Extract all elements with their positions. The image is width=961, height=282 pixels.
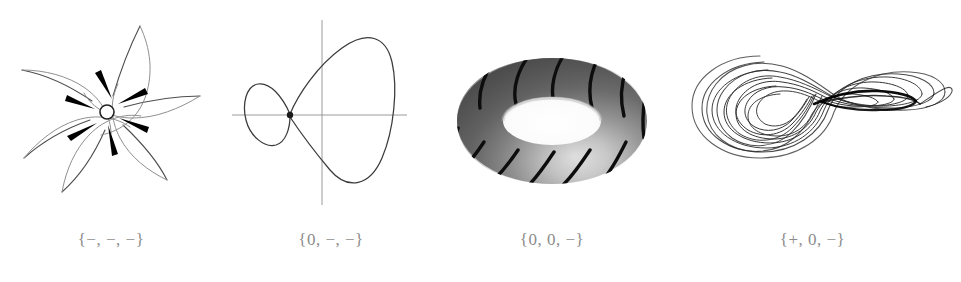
torus-body-group — [440, 50, 664, 190]
torus-diagram — [440, 0, 664, 225]
saddle-fixed-point — [287, 112, 293, 118]
limit-cycle-diagram — [222, 0, 440, 225]
flow-arrowhead — [95, 70, 112, 99]
panel-strange-attractor: {+, 0, −} — [664, 0, 961, 282]
fold-band-tip — [920, 87, 952, 107]
spiral-sink-diagram — [0, 0, 222, 225]
attractor-orbit — [745, 87, 894, 131]
spiral-arm — [24, 120, 90, 158]
panel-torus: {0, 0, −} — [440, 0, 664, 282]
panel-caption-fixed-point: {−, −, −} — [0, 228, 222, 252]
strange-attractor-svg — [664, 0, 961, 225]
orbit-group — [245, 38, 395, 183]
torus-svg — [440, 0, 664, 225]
panel-caption-limit-cycle: {0, −, −} — [222, 228, 440, 252]
large-loop — [290, 38, 395, 183]
axes-group — [232, 20, 407, 205]
panel-caption-torus: {0, 0, −} — [440, 228, 664, 252]
panel-limit-cycle: {0, −, −} — [222, 0, 440, 282]
limit-cycle-svg — [222, 0, 440, 225]
spiral-arm — [62, 130, 105, 192]
panel-fixed-point: {−, −, −} — [0, 0, 222, 282]
strange-attractor-diagram — [664, 0, 961, 225]
attractor-orbit — [707, 63, 945, 151]
attractor-types-figure: {−, −, −} {0, −, −} — [0, 0, 961, 282]
winding-curve — [643, 96, 645, 138]
spiral-sink-svg — [0, 0, 222, 225]
panel-caption-strange-attractor: {+, 0, −} — [664, 228, 961, 252]
fixed-point-marker — [100, 105, 114, 119]
winding-curve — [446, 128, 458, 158]
